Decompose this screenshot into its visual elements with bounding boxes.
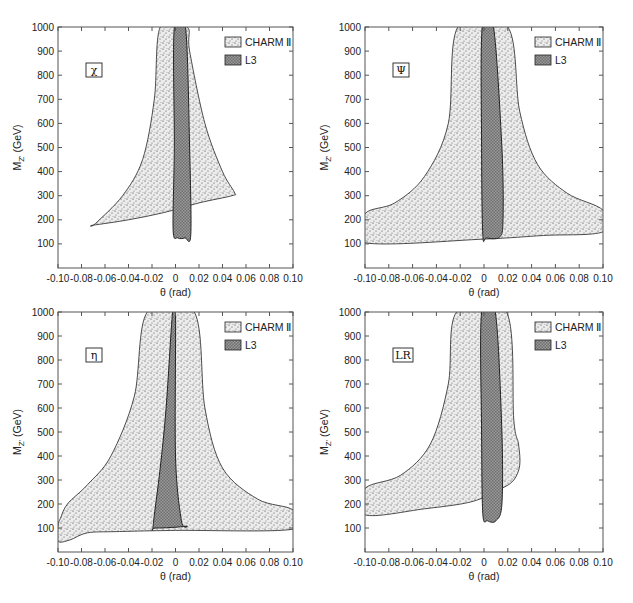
x-tick-label: 0.04 (213, 557, 233, 568)
legend: CHARM ⅡL3 (225, 321, 291, 351)
y-tick-label: 500 (344, 427, 361, 438)
svg-text:η: η (91, 349, 98, 362)
panel-psi: -0.10-0.08-0.06-0.04-0.0200.020.040.060.… (318, 13, 613, 298)
y-tick-label: 600 (37, 118, 54, 129)
y-tick-label: 500 (344, 142, 361, 153)
y-axis-label: MZ' (GeV) (11, 124, 26, 170)
legend-label-charm: CHARM Ⅱ (555, 36, 601, 48)
x-tick-label: 0.08 (260, 557, 280, 568)
x-tick-label: -0.08 (70, 273, 93, 284)
x-tick-label: -0.06 (401, 557, 424, 568)
x-tick-label: -0.06 (94, 557, 117, 568)
x-tick-label: -0.02 (141, 273, 164, 284)
y-tick-label: 100 (37, 523, 54, 534)
model-label: η (86, 348, 102, 362)
y-tick-label: 300 (344, 475, 361, 486)
charm-ii-region (57, 301, 303, 542)
y-tick-label: 400 (344, 451, 361, 462)
x-tick-label: -0.04 (425, 273, 448, 284)
y-tick-label: 1000 (339, 22, 362, 33)
plot-area (57, 297, 303, 542)
x-tick-label: 0.06 (546, 557, 566, 568)
legend-label-l3: L3 (245, 339, 257, 351)
x-tick-label: 0.10 (593, 273, 613, 284)
y-tick-label: 100 (37, 238, 54, 249)
legend-label-charm: CHARM Ⅱ (555, 321, 601, 333)
legend-swatch-l3 (225, 340, 241, 350)
x-tick-label: -0.10 (354, 273, 377, 284)
panel-chi: -0.10-0.08-0.06-0.04-0.0200.020.040.060.… (11, 13, 303, 298)
legend-label-l3: L3 (555, 54, 567, 66)
y-tick-label: 400 (37, 166, 54, 177)
figure-four-panel: -0.10-0.08-0.06-0.04-0.0200.020.040.060.… (0, 0, 633, 603)
y-tick-label: 200 (37, 214, 54, 225)
x-tick-label: 0.08 (260, 273, 280, 284)
x-tick-label: 0.04 (522, 557, 542, 568)
y-tick-label: 400 (37, 451, 54, 462)
x-tick-label: 0.06 (236, 273, 256, 284)
legend: CHARM ⅡL3 (535, 36, 601, 66)
charm-ii-region (90, 21, 235, 226)
svg-text:Ψ: Ψ (396, 64, 406, 77)
legend-swatch-charm (535, 322, 551, 332)
legend-swatch-l3 (225, 55, 241, 65)
x-tick-label: -0.02 (449, 273, 472, 284)
y-tick-label: 500 (37, 427, 54, 438)
panel-lr: -0.10-0.08-0.06-0.04-0.0200.020.040.060.… (318, 298, 613, 582)
x-tick-label: 0 (173, 273, 179, 284)
legend-swatch-l3 (535, 340, 551, 350)
y-tick-label: 400 (344, 166, 361, 177)
y-tick-label: 1000 (32, 22, 55, 33)
y-tick-label: 700 (37, 94, 54, 105)
x-axis-label: θ (rad) (469, 286, 500, 298)
x-tick-label: -0.02 (449, 557, 472, 568)
plot-area (359, 298, 520, 523)
y-axis-label: MZ' (GeV) (318, 124, 333, 170)
y-tick-label: 900 (37, 331, 54, 342)
y-tick-label: 900 (344, 331, 361, 342)
x-tick-label: 0.06 (546, 273, 566, 284)
svg-text:χ: χ (91, 64, 98, 77)
svg-text:LR: LR (395, 349, 411, 362)
model-label: Ψ (393, 63, 409, 77)
y-tick-label: 600 (344, 403, 361, 414)
y-tick-label: 900 (344, 46, 361, 57)
panel-eta: -0.10-0.08-0.06-0.04-0.0200.020.040.060.… (11, 297, 303, 582)
x-tick-label: 0.02 (498, 557, 518, 568)
x-tick-label: -0.10 (354, 557, 377, 568)
y-tick-label: 800 (37, 70, 54, 81)
x-tick-label: 0 (173, 557, 179, 568)
y-tick-label: 200 (344, 499, 361, 510)
x-axis-label: θ (rad) (160, 286, 191, 298)
y-tick-label: 200 (344, 214, 361, 225)
y-axis-label: MZ' (GeV) (11, 409, 26, 455)
y-tick-label: 100 (344, 523, 361, 534)
x-tick-label: 0.02 (189, 557, 209, 568)
y-tick-label: 200 (37, 499, 54, 510)
x-axis-label: θ (rad) (160, 570, 191, 582)
legend-label-charm: CHARM Ⅱ (245, 36, 291, 48)
legend-label-charm: CHARM Ⅱ (245, 321, 291, 333)
x-axis-label: θ (rad) (469, 570, 500, 582)
y-tick-label: 900 (37, 46, 54, 57)
x-tick-label: 0.04 (213, 273, 233, 284)
y-tick-label: 300 (37, 475, 54, 486)
y-tick-label: 500 (37, 142, 54, 153)
model-label: LR (393, 348, 413, 362)
y-tick-label: 300 (37, 190, 54, 201)
y-tick-label: 600 (37, 403, 54, 414)
x-tick-label: 0 (481, 557, 487, 568)
x-tick-label: 0.08 (569, 557, 589, 568)
x-tick-label: 0.02 (189, 273, 209, 284)
legend-label-l3: L3 (555, 339, 567, 351)
y-tick-label: 300 (344, 190, 361, 201)
legend-swatch-charm (535, 37, 551, 47)
y-tick-label: 800 (344, 355, 361, 366)
y-tick-label: 1000 (32, 307, 55, 318)
legend-swatch-charm (225, 322, 241, 332)
y-tick-label: 600 (344, 118, 361, 129)
legend: CHARM ⅡL3 (535, 321, 601, 351)
x-tick-label: -0.08 (377, 557, 400, 568)
x-tick-label: -0.08 (70, 557, 93, 568)
x-tick-label: 0.10 (283, 557, 303, 568)
